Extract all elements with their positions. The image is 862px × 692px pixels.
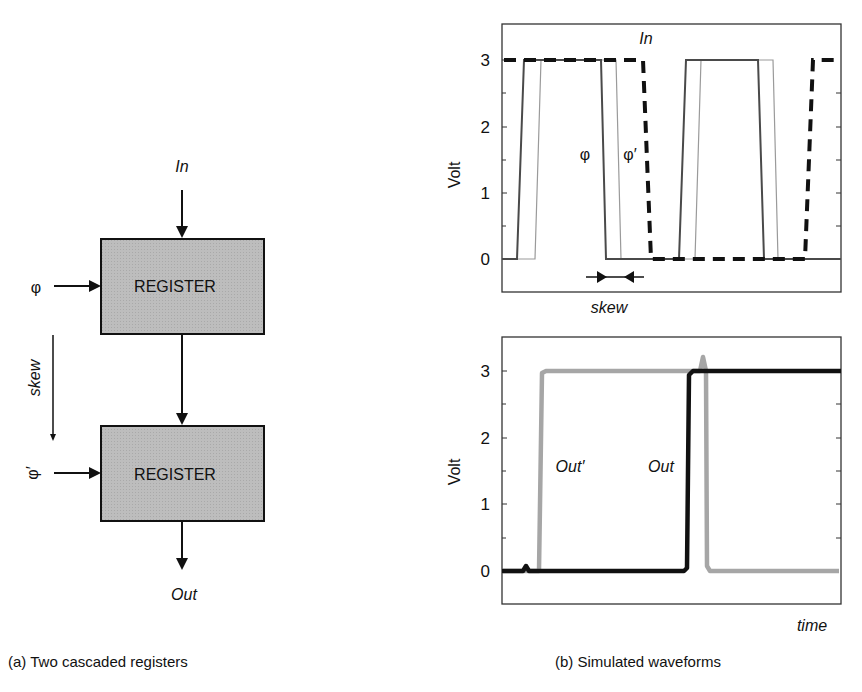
skew-interval-arrow-icon bbox=[586, 271, 644, 283]
out-prime-trace-label: Out′ bbox=[556, 458, 586, 475]
y-tick-0: 0 bbox=[481, 562, 490, 581]
x-axis-label: time bbox=[797, 617, 827, 634]
figure-canvas: In REGISTER φ skew REGISTER φ′ bbox=[0, 0, 862, 692]
skew-label: skew bbox=[26, 358, 43, 396]
y-tick-2: 2 bbox=[481, 429, 490, 448]
register-1-label: REGISTER bbox=[134, 278, 216, 295]
in-trace-label: In bbox=[639, 30, 652, 47]
caption-b: (b) Simulated waveforms bbox=[555, 653, 721, 670]
caption-a: (a) Two cascaded registers bbox=[8, 653, 188, 670]
clock-phi-label: φ bbox=[31, 279, 41, 296]
y-axis-label: Volt bbox=[446, 161, 463, 188]
output-label: Out bbox=[171, 586, 197, 603]
bottom-waveform-plot: 3 2 1 0 Volt Out′ Out time bbox=[446, 337, 841, 634]
phi-prime-trace-label: φ′ bbox=[623, 146, 636, 163]
y-tick-1: 1 bbox=[481, 495, 490, 514]
input-label: In bbox=[175, 158, 188, 175]
y-tick-3: 3 bbox=[481, 51, 490, 70]
plot-frame bbox=[502, 24, 841, 292]
skew-arrow-icon bbox=[50, 335, 56, 441]
phi-prime-trace bbox=[502, 60, 841, 259]
block-diagram: In REGISTER φ skew REGISTER φ′ bbox=[24, 158, 264, 603]
skew-interval-label: skew bbox=[591, 299, 629, 316]
out-trace-label: Out bbox=[648, 458, 674, 475]
y-tick-1: 1 bbox=[481, 184, 490, 203]
input-arrow-icon bbox=[176, 190, 188, 238]
register-link-arrow-icon bbox=[176, 334, 188, 425]
clock-phi-prime-label: φ′ bbox=[24, 466, 41, 479]
clock-phi-prime-arrow-icon bbox=[54, 467, 101, 479]
phi-trace-label: φ bbox=[580, 146, 590, 163]
in-trace bbox=[504, 60, 841, 259]
top-waveform-plot: 3 2 1 0 Volt In φ φ′ skew bbox=[446, 24, 841, 316]
y-axis-label: Volt bbox=[446, 458, 463, 485]
y-tick-0: 0 bbox=[481, 250, 490, 269]
phi-trace bbox=[502, 60, 841, 259]
y-tick-3: 3 bbox=[481, 362, 490, 381]
register-2-label: REGISTER bbox=[134, 466, 216, 483]
clock-phi-arrow-icon bbox=[54, 280, 101, 292]
output-arrow-icon bbox=[176, 521, 188, 570]
y-ticks bbox=[502, 60, 841, 259]
y-tick-2: 2 bbox=[481, 118, 490, 137]
